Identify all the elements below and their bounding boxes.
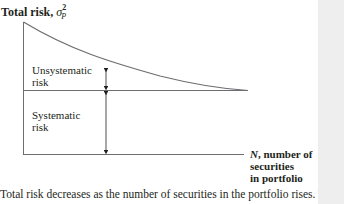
y-axis-label: Total risk, σ2P: [1, 4, 71, 21]
figure-caption: Total risk decreases as the number of se…: [0, 188, 338, 200]
x-axis-label: N, number of securities in portfolio: [250, 148, 312, 184]
side-panel: [318, 0, 344, 204]
systematic-risk-label: Systematic risk: [32, 109, 80, 133]
unsystematic-risk-label: Unsystematic risk: [32, 64, 92, 88]
diversification-chart: Total risk, σ2P Unsystematic risk System…: [0, 0, 318, 180]
